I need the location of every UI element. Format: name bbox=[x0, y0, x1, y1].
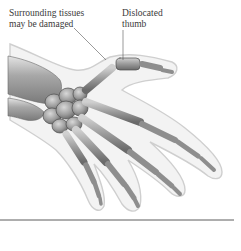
hand-skeleton-illustration bbox=[0, 0, 241, 251]
leader-line-tissues bbox=[74, 28, 106, 60]
